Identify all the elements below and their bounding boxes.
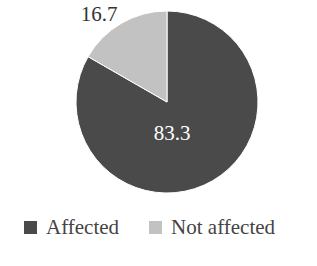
legend-item-not-affected: Not affected: [149, 215, 275, 240]
pie-chart: 83.3 16.7: [0, 0, 317, 210]
legend-swatch-not-affected-icon: [149, 221, 162, 234]
legend-label-not-affected: Not affected: [171, 215, 275, 240]
data-label-affected: 83.3: [154, 121, 191, 145]
legend-item-affected: Affected: [24, 215, 119, 240]
data-label-not-affected: 16.7: [81, 2, 118, 26]
legend-swatch-affected-icon: [24, 221, 37, 234]
legend-label-affected: Affected: [46, 215, 119, 240]
legend: Affected Not affected: [24, 215, 305, 240]
